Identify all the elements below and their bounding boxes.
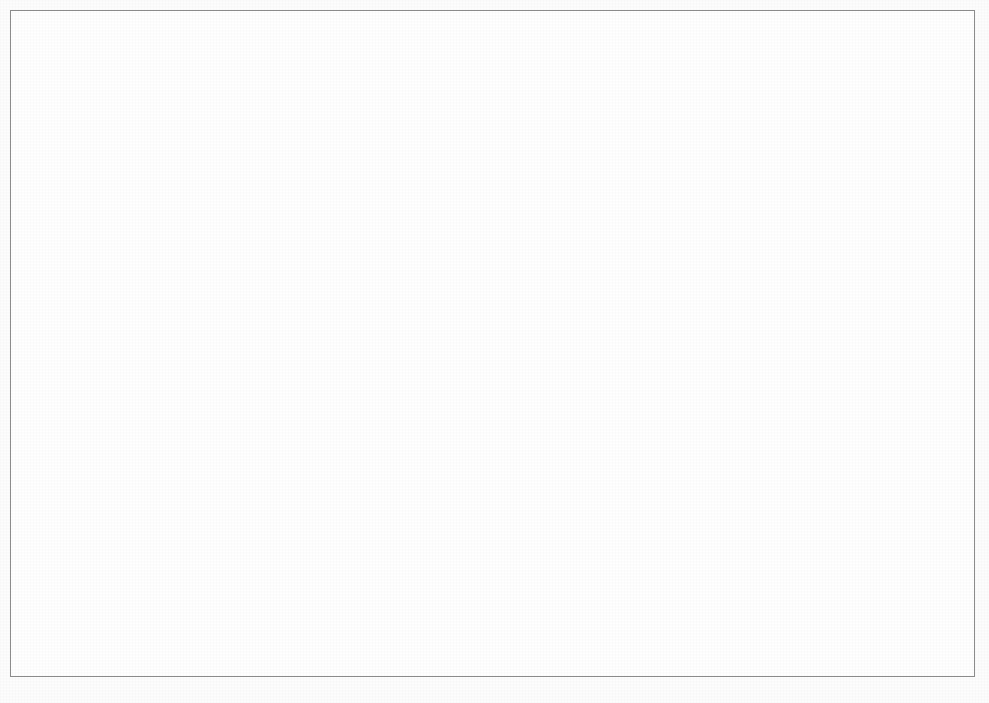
chart-page — [0, 0, 989, 703]
pie-chart-svg — [0, 0, 989, 703]
pie-chart — [0, 0, 989, 703]
